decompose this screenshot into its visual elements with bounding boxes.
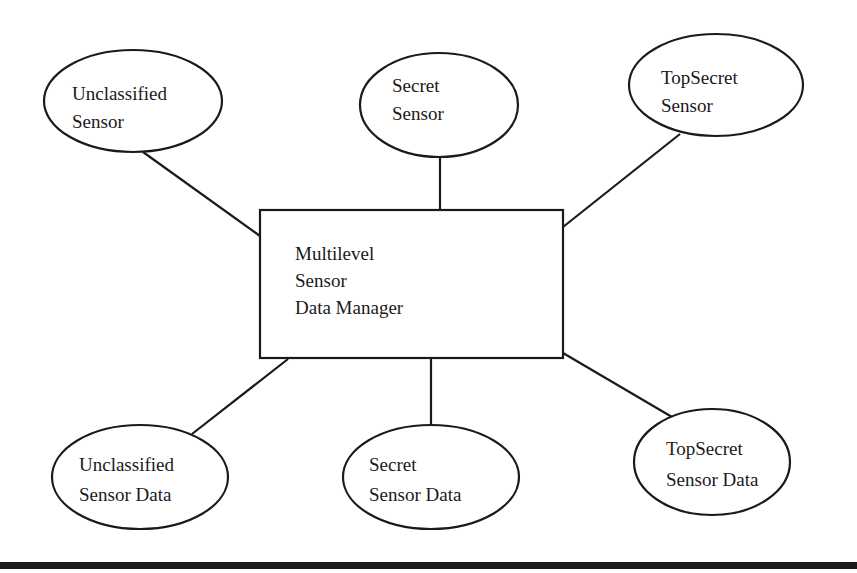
topsecret-sensor-label-line-1: TopSecret [661,67,738,88]
unclassified-data-label-line-2: Sensor Data [79,484,172,505]
unclassified-sensor-label-line-1: Unclassified [72,83,167,104]
topsecret-sensor-data-node: TopSecret Sensor Data [634,409,790,515]
secret-sensor-data-node: Secret Sensor Data [343,425,519,529]
edge-topsecret-sensor [563,134,680,227]
edge-unclassified-sensor [143,152,260,236]
topsecret-sensor-node: TopSecret Sensor [629,34,803,136]
unclassified-sensor-data-node: Unclassified Sensor Data [52,425,228,529]
unclassified-sensor-node: Unclassified Sensor [44,50,222,152]
secret-sensor-label-line-2: Sensor [392,103,444,124]
secret-sensor-label-line-1: Secret [392,75,440,96]
topsecret-sensor-label-line-2: Sensor [661,95,713,116]
topsecret-data-label-line-2: Sensor Data [666,469,759,490]
secret-data-label-line-2: Sensor Data [369,484,462,505]
multilevel-sensor-diagram: Multilevel Sensor Data Manager Unclassif… [0,0,857,573]
secret-data-label-line-1: Secret [369,454,417,475]
multilevel-sensor-data-manager-box: Multilevel Sensor Data Manager [260,210,563,358]
bottom-divider [0,562,857,569]
center-label-line-2: Sensor [295,270,347,291]
unclassified-data-label-line-1: Unclassified [79,454,174,475]
secret-sensor-node: Secret Sensor [360,53,518,157]
topsecret-data-label-line-1: TopSecret [666,438,743,459]
center-label-line-1: Multilevel [295,243,374,264]
edge-unclassified-data [192,359,288,434]
unclassified-sensor-label-line-2: Sensor [72,111,124,132]
edge-topsecret-data [563,353,672,417]
center-label-line-3: Data Manager [295,297,404,318]
